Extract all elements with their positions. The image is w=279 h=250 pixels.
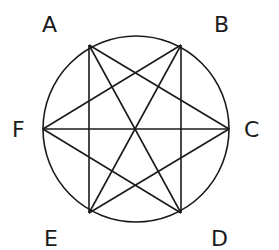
label-C: C [244, 117, 259, 142]
label-A: A [42, 12, 57, 37]
label-B: B [214, 12, 229, 37]
star-in-circle-diagram: A B C D E F [0, 0, 279, 250]
label-E: E [44, 226, 58, 250]
label-D: D [211, 226, 228, 250]
label-F: F [12, 117, 25, 142]
